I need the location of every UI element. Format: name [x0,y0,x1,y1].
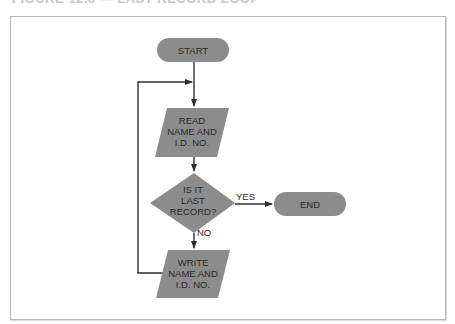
edge-label-no: NO [197,227,211,238]
node-write-line-3: I.D. NO. [176,279,210,290]
node-end-label: END [300,199,320,210]
node-read: READ NAME AND I.D. NO. [155,108,229,157]
node-decision: IS IT LAST RECORD? [150,173,235,233]
node-end: END [274,192,346,216]
node-read-line-1: READ [179,115,206,126]
node-write: WRITE NAME AND I.D. NO. [156,250,230,298]
node-decision-line-1: IS IT [183,184,203,195]
edge-label-yes: YES [236,191,255,202]
node-start-label: START [178,45,208,56]
node-decision-line-3: RECORD? [170,206,216,217]
node-write-line-1: WRITE [178,257,209,268]
flowchart: START READ NAME AND I.D. NO. IS IT LAST … [0,0,455,324]
node-start: START [157,38,229,62]
node-read-line-3: I.D. NO. [175,137,209,148]
node-decision-line-2: LAST [181,195,205,206]
connectors [138,62,272,273]
node-write-line-2: NAME AND [168,268,218,279]
node-read-line-2: NAME AND [167,126,217,137]
